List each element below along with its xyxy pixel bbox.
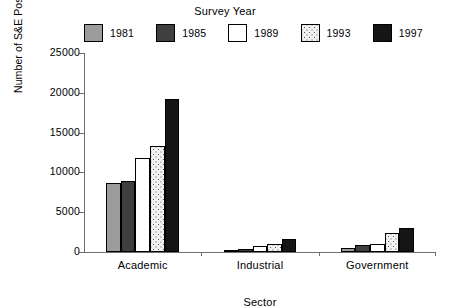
y-tick-label: 5000 xyxy=(56,205,80,217)
legend-swatch-1981 xyxy=(84,24,103,42)
y-tick-25000: 25000 xyxy=(84,53,85,54)
bar-industrial-1989[interactable] xyxy=(253,246,268,252)
bar-government-1993[interactable] xyxy=(385,233,400,252)
legend-label-1993: 1993 xyxy=(327,27,351,39)
legend-label-1981: 1981 xyxy=(110,27,134,39)
legend-swatch-1989 xyxy=(228,24,247,42)
bar-government-1997[interactable] xyxy=(399,228,414,252)
y-axis-line xyxy=(84,53,85,252)
y-tick-15000: 15000 xyxy=(84,133,85,134)
legend-item-1989[interactable]: 1989 xyxy=(228,24,278,42)
x-axis-line xyxy=(84,252,436,253)
legend-swatch-1997 xyxy=(373,24,392,42)
legend-title: Survey Year xyxy=(0,5,450,17)
bar-industrial-1997[interactable] xyxy=(282,239,297,252)
legend-item-1997[interactable]: 1997 xyxy=(373,24,423,42)
legend-label-1989: 1989 xyxy=(254,27,278,39)
legend: 19811985198919931997 xyxy=(84,24,445,42)
x-tick-mark-0 xyxy=(201,252,202,256)
y-tick-label: 25000 xyxy=(50,46,80,58)
y-tick-label: 20000 xyxy=(50,86,80,98)
bar-academic-1997[interactable] xyxy=(165,99,180,252)
bar-academic-1981[interactable] xyxy=(106,183,121,252)
bar-academic-1989[interactable] xyxy=(135,158,150,252)
bar-academic-1993[interactable] xyxy=(150,146,165,252)
x-tick-mark-2 xyxy=(435,252,436,256)
legend-item-1985[interactable]: 1985 xyxy=(156,24,206,42)
y-axis-title: Number of S&E Postdoctoral Appointments xyxy=(12,0,24,93)
legend-item-1981[interactable]: 1981 xyxy=(84,24,134,42)
x-axis-title: Sector xyxy=(84,296,436,308)
x-axis-label-government: Government xyxy=(346,259,409,271)
bar-industrial-1981[interactable] xyxy=(224,250,239,252)
y-tick-20000: 20000 xyxy=(84,93,85,94)
y-tick-label: 0 xyxy=(74,245,80,257)
bar-academic-1985[interactable] xyxy=(121,181,136,252)
x-axis-label-industrial: Industrial xyxy=(237,259,284,271)
legend-label-1985: 1985 xyxy=(182,27,206,39)
legend-item-1993[interactable]: 1993 xyxy=(301,24,351,42)
plot-area: 0500010000150002000025000 AcademicIndust… xyxy=(84,53,436,252)
y-tick-0: 0 xyxy=(84,252,85,253)
x-tick-mark-1 xyxy=(319,252,320,256)
y-tick-label: 10000 xyxy=(50,165,80,177)
bar-government-1985[interactable] xyxy=(355,245,370,252)
y-tick-label: 15000 xyxy=(50,126,80,138)
y-tick-5000: 5000 xyxy=(84,212,85,213)
x-axis-label-academic: Academic xyxy=(118,259,168,271)
bar-industrial-1993[interactable] xyxy=(267,244,282,252)
bar-government-1989[interactable] xyxy=(370,244,385,252)
legend-swatch-1985 xyxy=(156,24,175,42)
legend-swatch-1993 xyxy=(301,24,320,42)
legend-label-1997: 1997 xyxy=(399,27,423,39)
bar-government-1981[interactable] xyxy=(341,248,356,252)
y-tick-10000: 10000 xyxy=(84,172,85,173)
bar-industrial-1985[interactable] xyxy=(238,249,253,252)
